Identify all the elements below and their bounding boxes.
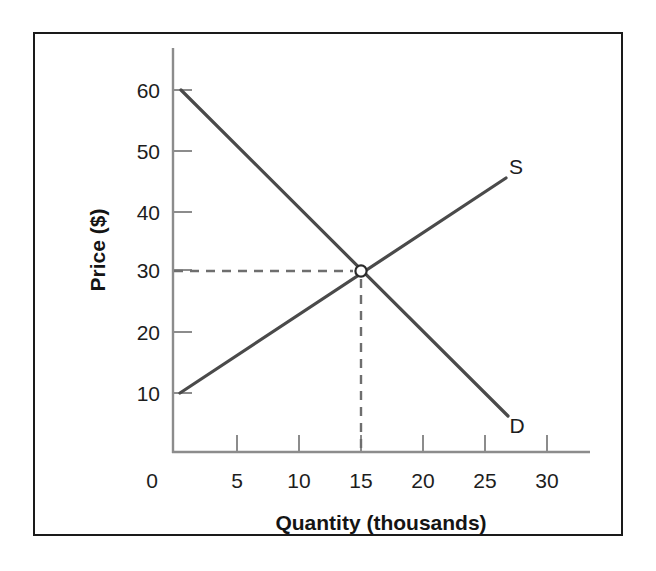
demand-curve <box>181 90 508 416</box>
equilibrium-point-marker <box>355 265 366 276</box>
y-tick-label-40: 40 <box>120 202 160 223</box>
supply-curve-label: S <box>509 156 523 177</box>
y-tick-label-20: 20 <box>120 322 160 343</box>
x-tick-label-15: 15 <box>349 470 372 491</box>
x-axis-ticks <box>237 435 547 452</box>
y-tick-label-30: 30 <box>120 260 160 281</box>
y-axis-ticks <box>173 90 192 393</box>
figure-container: 60 50 40 30 20 10 0 5 10 15 20 25 30 Pri… <box>0 0 656 571</box>
demand-curve-label: D <box>509 415 524 436</box>
x-tick-label-30: 30 <box>535 470 558 491</box>
x-tick-label-25: 25 <box>473 470 496 491</box>
x-tick-label-5: 5 <box>231 470 243 491</box>
x-tick-label-20: 20 <box>411 470 434 491</box>
x-tick-label-10: 10 <box>287 470 310 491</box>
y-tick-label-10: 10 <box>120 383 160 404</box>
x-tick-label-0: 0 <box>146 470 158 491</box>
supply-curve <box>180 178 506 393</box>
y-tick-label-60: 60 <box>120 80 160 101</box>
y-axis-title: Price ($) <box>87 209 108 292</box>
x-axis-title: Quantity (thousands) <box>275 512 486 533</box>
y-tick-label-50: 50 <box>120 141 160 162</box>
